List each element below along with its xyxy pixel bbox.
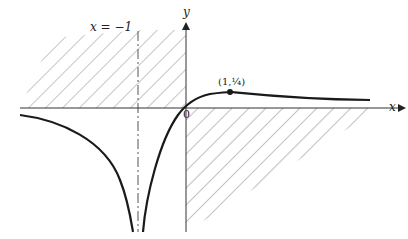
x-axis-arrow-icon — [398, 104, 406, 112]
hatched-region-lower-right — [0, 0, 408, 239]
max-point-label: (1,¼) — [218, 76, 245, 87]
origin-label: 0 — [183, 108, 190, 121]
asymptote-label: x = −1 — [90, 20, 132, 34]
curve-left-branch — [20, 115, 133, 232]
y-axis-label: y — [183, 5, 190, 19]
y-axis-arrow-icon — [182, 22, 190, 30]
function-graph — [0, 0, 408, 239]
x-axis-label: x — [389, 100, 396, 114]
maximum-point — [227, 89, 233, 95]
